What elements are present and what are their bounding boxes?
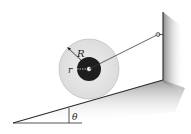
inner-radius-label: r: [68, 65, 73, 75]
spool-on-incline-diagram: R r θ: [0, 0, 191, 134]
diagram-canvas: R r θ: [0, 0, 191, 134]
outer-radius-label: R: [76, 48, 85, 59]
angle-label: θ: [72, 112, 78, 122]
wall-shadow: [163, 12, 184, 95]
